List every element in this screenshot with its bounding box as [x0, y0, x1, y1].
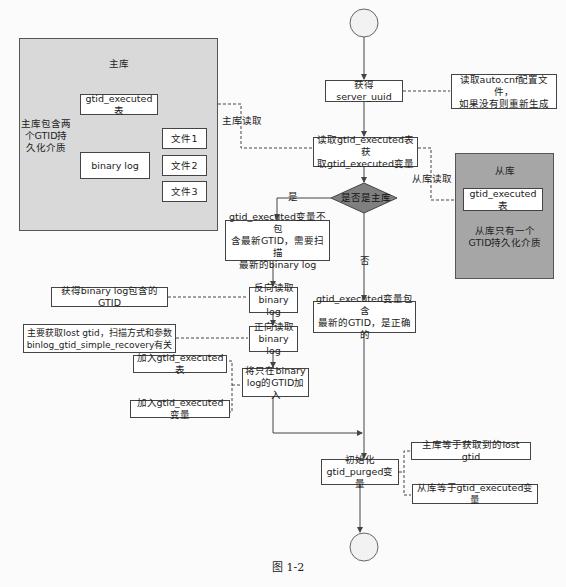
reverse-note-box: 获得binary log包含的GTID: [51, 287, 168, 307]
master-read-label: 主库读取: [222, 115, 262, 127]
yes-label: 是: [287, 191, 299, 203]
binlog-file-3: 文件3: [162, 181, 207, 202]
init-purged-box: 初始化 gtid_purged变量: [321, 459, 399, 485]
yes-branch-box: gtid_executed变量不包 含最新GTID，需要扫描 最新的binary…: [225, 220, 330, 261]
purged-slave-note-box: 从库等于gtid_executed变量: [412, 484, 538, 504]
add-table-note-box: 加入gtid_executed表: [133, 355, 227, 373]
master-panel-title: 主库: [104, 58, 134, 70]
master-binlog-box: binary log: [80, 152, 150, 179]
slave-gtid-table-box: gtid_executed表: [463, 188, 543, 211]
binlog-file-1: 文件1: [162, 128, 207, 149]
add-var-note-box: 加入gtid_executed变量: [130, 400, 230, 418]
decision-label: 是否是主库: [335, 192, 397, 204]
master-brace-label: 主库包含两 个GTID持 久化介质: [20, 118, 72, 154]
slave-read-label: 从库读取: [412, 173, 452, 185]
purged-master-note-box: 主库等于获取到的lost gtid: [411, 442, 531, 460]
master-gtid-table-box: gtid_executed表: [80, 94, 158, 115]
add-gtid-box: 将只在binary log的GTID加入: [242, 368, 309, 397]
forward-note-box: 主要获取lost gtid，扫描方式和参数 binlog_gtid_simple…: [23, 324, 176, 353]
no-branch-box: gtid_executed变量包含 最新的GTID，是正确的: [313, 301, 416, 333]
slave-panel-title: 从库: [485, 165, 525, 177]
get-uuid-box: 获得server_uuid: [325, 80, 403, 102]
reverse-read-box: 反向读取 binary log: [249, 287, 298, 313]
read-table-box: 读取gtid_executed表获 取gtid_executed变量: [313, 137, 418, 167]
binlog-file-2: 文件2: [162, 155, 207, 176]
uuid-note-box: 读取auto.cnf配置文件， 如果没有则重新生成: [451, 74, 557, 109]
no-label: 否: [359, 255, 371, 267]
figure-caption: 图 1-2: [272, 558, 304, 574]
slave-panel-note: 从库只有一个 GTID持久化介质: [460, 225, 550, 249]
forward-read-box: 正向读取 binary log: [249, 326, 298, 352]
